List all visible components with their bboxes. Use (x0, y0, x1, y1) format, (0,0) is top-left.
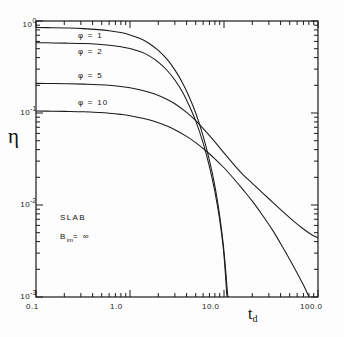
annotation-geometry: SLAB (60, 213, 86, 222)
y-tick-label: 100 (6, 17, 36, 29)
y-tick-exponent: -1 (30, 105, 36, 112)
y-tick-label: 10-3 (6, 289, 36, 301)
curve-label-phi-2: φ = 2 (78, 47, 103, 56)
y-tick-exponent: -3 (30, 289, 36, 296)
x-tick-label: 100.0 (300, 302, 323, 311)
x-axis-title-subscript: d (252, 313, 257, 324)
axis-frame (36, 21, 318, 297)
y-tick-label: 10-2 (6, 197, 36, 209)
biot-base: B (60, 232, 67, 241)
curve-label-phi-10: φ = 10 (78, 98, 108, 107)
y-tick-exponent: -2 (30, 197, 36, 204)
figure-container: 100 10-1 10-2 10-3 0.1 1.0 10.0 100.0 η … (0, 0, 344, 337)
y-tick-label: 10-1 (6, 105, 36, 117)
chart-canvas (0, 0, 344, 337)
y-tick-mantissa: 10 (20, 108, 30, 117)
y-tick-mantissa: 10 (22, 20, 32, 29)
x-axis-ticks (36, 21, 318, 297)
curve-phi-2 (36, 43, 228, 297)
x-tick-label: 0.1 (26, 302, 39, 311)
x-axis-title: td (248, 305, 257, 323)
curve-phi-1 (36, 27, 228, 297)
curve-label-phi-1: φ = 1 (78, 31, 103, 40)
curve-label-phi-5: φ = 5 (78, 71, 103, 80)
y-tick-exponent: 0 (32, 17, 36, 24)
y-tick-mantissa: 10 (20, 200, 30, 209)
y-axis-ticks (36, 21, 318, 297)
x-tick-label: 10.0 (202, 302, 220, 311)
x-tick-label: 1.0 (110, 302, 123, 311)
y-axis-title: η (8, 124, 19, 149)
biot-value: = ∞ (73, 232, 90, 241)
annotation-biot-number: Bim= ∞ (60, 232, 90, 243)
y-tick-mantissa: 10 (20, 292, 30, 301)
